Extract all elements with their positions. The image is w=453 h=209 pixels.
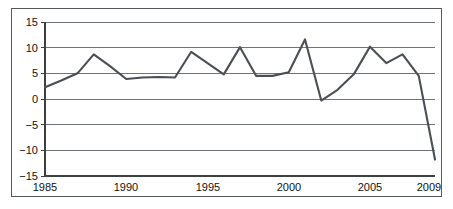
x-tick-label-2009: 2009 [417,181,441,193]
x-tick-label-1995: 1995 [196,181,220,193]
plot-area: 15 10 5 0 −5 −10 −15 1985 1990 1995 2000… [12,9,441,196]
x-tick-label-1985: 1985 [33,181,57,193]
y-tick-label-0: 0 [32,93,38,105]
y-tick-label-neg10: −10 [19,144,38,156]
y-tick-label-neg5: −5 [25,119,38,131]
chart-figure: 15 10 5 0 −5 −10 −15 1985 1990 1995 2000… [11,8,442,197]
x-tick-label-2000: 2000 [277,181,301,193]
y-tick-label-10: 10 [26,42,38,54]
y-tick-label-15: 15 [26,16,38,28]
y-axis-tick-labels: 15 10 5 0 −5 −10 −15 [19,16,38,182]
data-series-line [45,39,435,159]
line-chart-svg: 15 10 5 0 −5 −10 −15 1985 1990 1995 2000… [12,9,441,196]
x-tick-label-1990: 1990 [114,181,138,193]
x-tick-label-2005: 2005 [358,181,382,193]
y-tick-label-5: 5 [32,67,38,79]
x-axis-tick-labels: 1985 1990 1995 2000 2005 2009 [33,181,441,193]
gridlines-horizontal [45,22,435,176]
